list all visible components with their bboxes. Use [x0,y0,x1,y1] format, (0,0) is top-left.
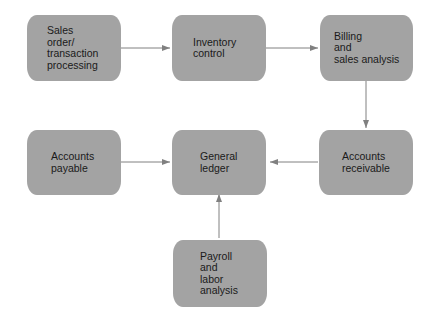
node-general-ledger: General ledger [172,130,266,195]
node-label: Payroll and labor analysis [200,251,238,297]
node-sales-order: Sales order/ transaction processing [27,15,121,81]
node-accounts-payable: Accounts payable [27,130,121,195]
node-billing: Billing and sales analysis [320,15,413,81]
node-inventory-control: Inventory control [172,15,266,81]
node-label: Sales order/ transaction processing [47,25,98,71]
node-label: Inventory control [193,37,236,60]
node-label: Accounts payable [51,151,94,174]
node-accounts-receivable: Accounts receivable [319,130,413,195]
node-label: General ledger [200,151,237,174]
node-payroll: Payroll and labor analysis [173,240,267,307]
node-label: Accounts receivable [342,151,390,174]
node-label: Billing and sales analysis [334,31,399,66]
